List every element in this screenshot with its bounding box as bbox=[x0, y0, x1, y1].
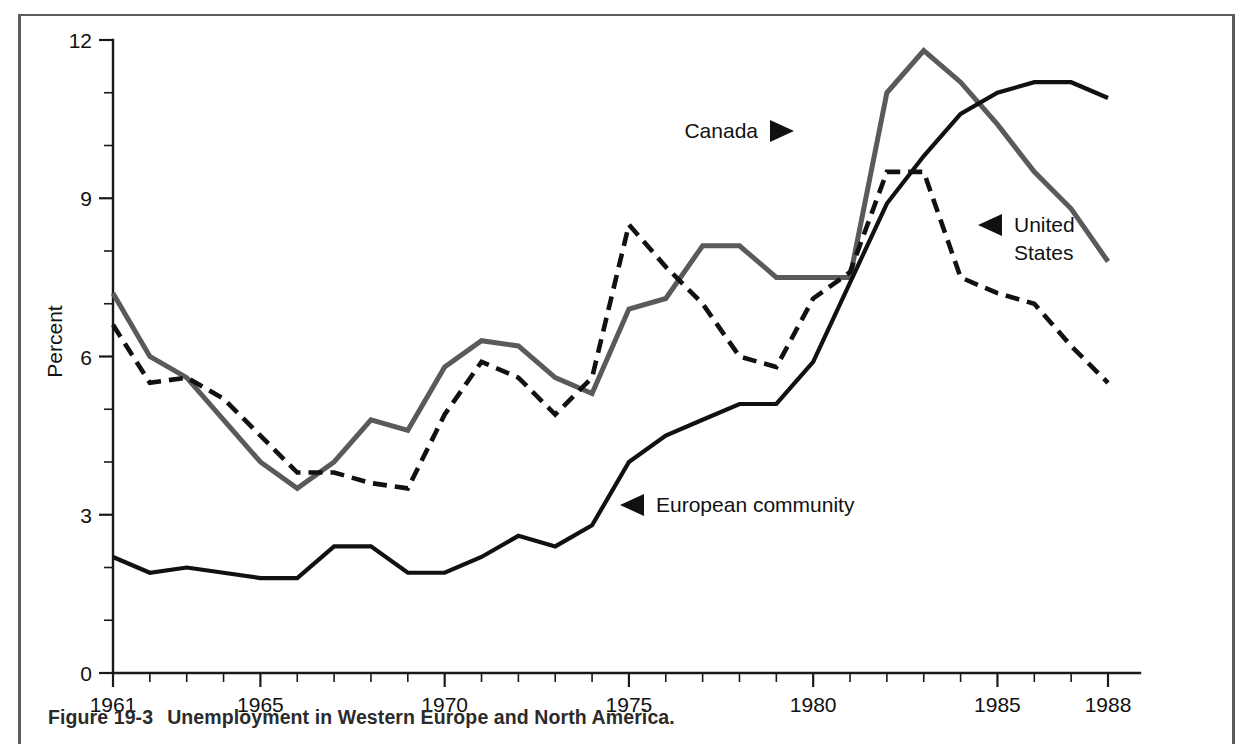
y-tick-label-12: 12 bbox=[69, 29, 92, 52]
x-tick-label-1985: 1985 bbox=[974, 693, 1021, 716]
x-tick-label-1988: 1988 bbox=[1085, 693, 1132, 716]
y-tick-label-9: 9 bbox=[80, 187, 92, 210]
annotation-united-states: UnitedStates bbox=[978, 213, 1075, 264]
figure-caption: Figure 19-3Unemployment in Western Europ… bbox=[48, 706, 675, 729]
series-annotations: CanadaUnitedStatesEuropean community bbox=[620, 119, 1075, 516]
annotation-label-line1-united-states: United bbox=[1014, 213, 1075, 236]
y-tick-label-6: 6 bbox=[80, 346, 92, 369]
annotation-arrow-left-united-states bbox=[978, 214, 1002, 236]
series-line-european-community bbox=[113, 82, 1108, 578]
figure-caption-number: Figure 19-3 bbox=[48, 706, 153, 728]
y-tick-label-3: 3 bbox=[80, 504, 92, 527]
data-series-group bbox=[113, 51, 1108, 579]
series-line-united-states bbox=[113, 172, 1108, 489]
annotation-european-community: European community bbox=[620, 493, 855, 516]
y-axis-label: Percent bbox=[43, 305, 66, 378]
annotation-canada: Canada bbox=[684, 119, 794, 142]
y-axis-title: Percent bbox=[43, 305, 66, 378]
y-axis-tick-labels: 036912 bbox=[69, 29, 92, 685]
unemployment-line-chart: 036912 1961196519701975198019851988 Perc… bbox=[0, 0, 1246, 744]
annotation-label-european-community: European community bbox=[656, 493, 855, 516]
annotation-arrow-right-canada bbox=[770, 120, 794, 142]
annotation-label-line2-united-states: States bbox=[1014, 241, 1074, 264]
x-tick-label-1980: 1980 bbox=[790, 693, 837, 716]
y-tick-label-0: 0 bbox=[80, 662, 92, 685]
annotation-arrow-left-european-community bbox=[620, 494, 644, 516]
figure-caption-text: Unemployment in Western Europe and North… bbox=[167, 706, 675, 728]
x-axis-ticks bbox=[113, 673, 1108, 687]
annotation-label-canada: Canada bbox=[684, 119, 758, 142]
y-axis-ticks bbox=[99, 40, 113, 673]
figure-container: 036912 1961196519701975198019851988 Perc… bbox=[0, 0, 1246, 744]
